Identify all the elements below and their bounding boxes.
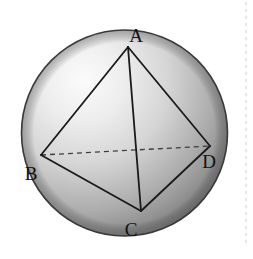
geometry-figure: A B C D [0, 0, 253, 259]
vertex-label-c: C [125, 219, 138, 240]
vertex-label-a: A [129, 25, 143, 46]
sphere-rim-shading [22, 30, 228, 236]
vertex-label-d: D [202, 151, 216, 172]
vertex-label-b: B [25, 163, 38, 184]
